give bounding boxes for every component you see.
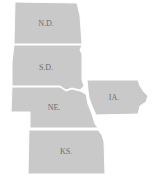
label-sd: S.D. xyxy=(39,63,53,72)
label-ks: KS. xyxy=(60,147,72,156)
label-nd: N.D. xyxy=(38,19,54,28)
label-ia: IA. xyxy=(109,93,119,102)
states-map: N.D. S.D. NE. IA. KS. xyxy=(0,0,162,177)
label-ne: NE. xyxy=(48,103,61,112)
